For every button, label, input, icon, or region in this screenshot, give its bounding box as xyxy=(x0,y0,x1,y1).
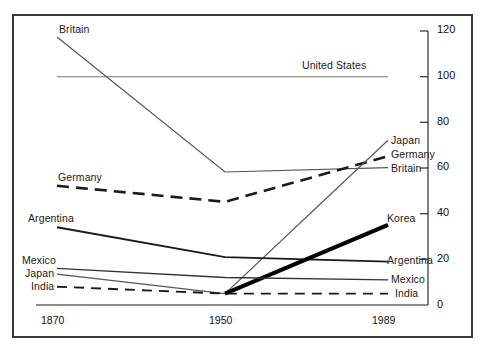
series-label-japan-right: Japan xyxy=(391,135,420,146)
series-line-britain xyxy=(57,37,388,172)
y-tick-label-40: 40 xyxy=(437,207,449,218)
y-axis-ticks xyxy=(420,31,428,259)
chart-container: 120 100 80 60 40 20 0 1870 1950 1989 Bri… xyxy=(0,0,486,350)
x-tick-label-1870: 1870 xyxy=(41,315,64,326)
x-tick-label-1950: 1950 xyxy=(209,315,232,326)
series-label-mexico-right: Mexico xyxy=(391,274,425,285)
series-label-argentina-left: Argentina xyxy=(28,213,74,224)
y-tick-label-20: 20 xyxy=(437,253,449,264)
series-line-korea xyxy=(225,225,388,294)
series-line-mexico xyxy=(57,268,388,279)
series-label-mexico-left: Mexico xyxy=(22,255,56,266)
y-tick-label-0: 0 xyxy=(437,299,443,310)
x-tick-label-1989: 1989 xyxy=(372,315,395,326)
series-label-germany-right: Germany xyxy=(391,149,435,160)
series-label-india-right: India xyxy=(395,288,418,299)
series-line-india xyxy=(57,287,388,294)
series-label-india-left: India xyxy=(31,281,54,292)
series-label-germany-left: Germany xyxy=(58,172,102,183)
y-tick-label-80: 80 xyxy=(437,116,449,127)
series-label-britain-right: Britain xyxy=(391,163,421,174)
series-label-japan-left: Japan xyxy=(25,268,54,279)
series-line-germany xyxy=(57,156,388,202)
series-label-korea-right: Korea xyxy=(387,213,416,224)
y-tick-label-120: 120 xyxy=(437,24,455,35)
y-tick-label-60: 60 xyxy=(437,161,449,172)
series-label-britain-left: Britain xyxy=(59,24,89,35)
series-label-united-states: United States xyxy=(302,60,366,71)
series-label-argentina-right: Argentina xyxy=(387,255,433,266)
y-tick-label-100: 100 xyxy=(437,70,455,81)
